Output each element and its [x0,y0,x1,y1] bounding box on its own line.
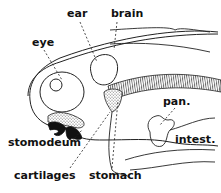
pharynx-stipple [104,89,122,112]
label-cartilages: cartilages [14,170,75,181]
label-intest: intest. [175,134,215,145]
label-eye: eye [32,37,54,48]
leader-pan [160,108,175,125]
label-brain: brain [111,8,143,19]
label-ear: ear [67,8,87,19]
intestine-bottom [130,162,215,170]
intestine-lower [125,149,215,160]
label-stomodeum: stomodeum [8,137,81,148]
eye-lens [50,79,62,91]
eye-structure [40,72,84,112]
label-stomach: stomach [89,170,142,181]
label-pan: pan. [163,96,190,107]
brain-lower-line [110,43,210,52]
leader-ear [80,22,97,62]
ear-structure [91,55,118,85]
intestine-upper [170,118,215,130]
